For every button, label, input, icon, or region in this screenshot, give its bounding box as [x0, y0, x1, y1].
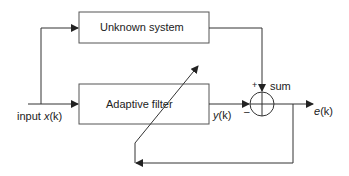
unknown-system-label: Unknown system [100, 22, 184, 33]
sum-label: sum [270, 81, 291, 92]
output-index: (k) [219, 109, 232, 121]
input-index: (k) [49, 110, 62, 122]
adaptation-arrow [135, 66, 198, 163]
output-label: y(k) [213, 110, 231, 121]
input-branch [41, 28, 78, 104]
minus-sign: – [244, 107, 250, 117]
input-label: input x(k) [17, 111, 62, 122]
plus-sign: + [252, 81, 257, 90]
error-index: (k) [320, 105, 333, 117]
error-label: e(k) [314, 106, 333, 117]
adaptive-filter-label: Adaptive filter [106, 99, 173, 110]
input-text: input [17, 110, 44, 122]
